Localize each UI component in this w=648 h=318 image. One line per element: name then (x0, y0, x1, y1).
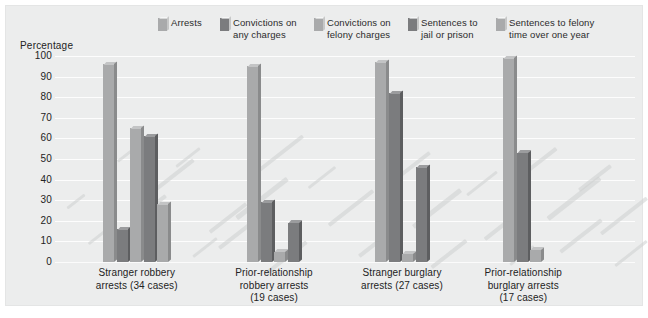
legend-item-1: Arrests (158, 17, 220, 31)
scan-streak (466, 171, 498, 197)
legend-label-2: Convictions on any charges (233, 17, 297, 40)
bar (416, 167, 427, 262)
bar (389, 93, 400, 262)
bar (288, 223, 299, 262)
legend-item-2: Convictions on any charges (220, 17, 314, 40)
y-tick-label: 10 (18, 236, 52, 246)
legend-swatch-icon-1 (158, 18, 167, 31)
bar (130, 128, 141, 262)
gridline (55, 77, 635, 78)
bar (103, 64, 114, 262)
gridline (55, 56, 635, 57)
bar-chart-figure: Percentage ArrestsConvictions on any cha… (0, 0, 648, 318)
legend-swatch-icon-3 (314, 18, 323, 31)
y-tick-label: 60 (18, 133, 52, 143)
plot-area: Stranger robbery arrests (34 cases)Prior… (55, 56, 635, 262)
x-category-label: Prior-relationship burglary arrests (17 … (461, 267, 585, 305)
scan-streak (151, 158, 194, 193)
legend-swatch-icon-2 (220, 18, 229, 31)
bar (402, 254, 413, 262)
y-tick-label: 20 (18, 216, 52, 226)
bar (247, 66, 258, 262)
y-tick-label: 70 (18, 113, 52, 123)
y-tick-label: 90 (18, 72, 52, 82)
legend-item-4: Sentences to jail or prison (408, 17, 496, 40)
legend-label-1: Arrests (171, 17, 202, 29)
y-tick-label: 80 (18, 92, 52, 102)
y-tick-label: 30 (18, 195, 52, 205)
legend-label-5: Sentences to felony time over one year (509, 17, 594, 40)
scan-streak (209, 202, 248, 233)
y-tick-label: 40 (18, 175, 52, 185)
y-tick-label: 50 (18, 154, 52, 164)
gridline (55, 262, 635, 263)
legend-item-5: Sentences to felony time over one year (496, 17, 616, 40)
x-category-label: Prior-relationship robbery arrests (19 c… (212, 267, 336, 305)
x-category-label: Stranger robbery arrests (34 cases) (75, 267, 199, 292)
bar (375, 62, 386, 262)
legend-swatch-icon-5 (496, 18, 505, 31)
bar (517, 153, 528, 262)
scan-streak (66, 194, 85, 210)
bar (117, 229, 128, 262)
scan-streak (192, 237, 217, 258)
y-tick-label: 100 (18, 51, 52, 61)
scan-streak (175, 147, 200, 168)
chart-legend: ArrestsConvictions on any chargesConvict… (158, 17, 638, 53)
bar (530, 250, 541, 262)
scan-streak (559, 218, 602, 253)
legend-item-3: Convictions on felony charges (314, 17, 408, 40)
bar (274, 252, 285, 262)
x-category-label: Stranger burglary arrests (27 cases) (340, 267, 464, 292)
gridline (55, 118, 635, 119)
y-axis-tick-labels: 1009080706050403020100 (18, 50, 52, 268)
scan-streak (578, 164, 612, 192)
scan-streak (308, 166, 337, 189)
scan-streak (546, 176, 601, 221)
y-tick-label: 0 (18, 257, 52, 267)
legend-swatch-icon-4 (408, 18, 417, 31)
scan-streak (256, 135, 304, 174)
gridline (55, 97, 635, 98)
bar (157, 204, 168, 262)
bar (144, 136, 155, 262)
legend-label-4: Sentences to jail or prison (421, 17, 478, 40)
bar (261, 202, 272, 262)
legend-label-3: Convictions on felony charges (327, 17, 391, 40)
bar (503, 58, 514, 262)
